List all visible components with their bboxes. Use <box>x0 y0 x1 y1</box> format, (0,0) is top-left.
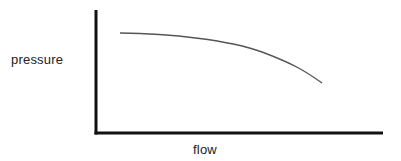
chart-canvas <box>0 0 401 161</box>
pressure-flow-chart: pressure flow <box>0 0 401 161</box>
pump-curve-line <box>120 33 322 83</box>
y-axis-label: pressure <box>11 52 63 67</box>
x-axis-label: flow <box>193 142 217 157</box>
